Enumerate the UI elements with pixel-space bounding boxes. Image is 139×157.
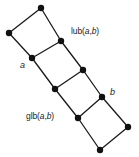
lattice-node xyxy=(29,55,35,61)
lattice-edge xyxy=(83,70,102,97)
lattice-edge xyxy=(78,118,100,150)
lattice-edge xyxy=(100,127,128,150)
lattice-edge xyxy=(9,33,32,58)
lattice-edge xyxy=(32,58,55,89)
glb-prefix: glb( xyxy=(26,111,40,121)
lattice-node xyxy=(52,86,58,92)
lattice-edge xyxy=(55,70,83,89)
lattice-edge xyxy=(61,41,83,70)
lattice-node xyxy=(97,147,103,153)
lattice-edge xyxy=(55,89,78,118)
lattice-node xyxy=(75,115,81,121)
lattice-node xyxy=(99,94,105,100)
lattice-edge xyxy=(32,41,61,58)
lattice-diagram: lub(a,b) a b glb(a,b) xyxy=(0,0,139,157)
node-label-a: a xyxy=(20,61,25,70)
lub-prefix: lub( xyxy=(71,26,85,36)
lattice-node xyxy=(38,5,44,11)
glb-suffix: ) xyxy=(51,111,54,121)
lattice-edge xyxy=(41,8,61,41)
lattice-edge xyxy=(9,8,41,33)
node-label-b: b xyxy=(110,88,115,97)
lattice-node xyxy=(125,124,131,130)
lub-suffix: ) xyxy=(96,26,99,36)
lattice-node xyxy=(80,67,86,73)
lattice-node xyxy=(6,30,12,36)
label-a-text: a xyxy=(20,60,25,70)
lattice-node xyxy=(58,38,64,44)
lattice-edge xyxy=(78,97,102,118)
lattice-edge xyxy=(102,97,128,127)
lattice-graph xyxy=(0,0,139,157)
label-b-text: b xyxy=(110,87,115,97)
lub-label: lub(a,b) xyxy=(71,27,99,36)
glb-label: glb(a,b) xyxy=(26,112,54,121)
